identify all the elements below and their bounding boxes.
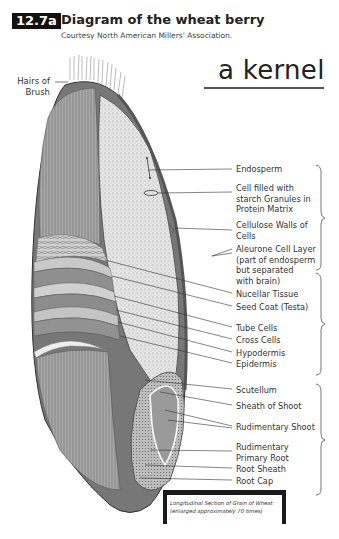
- caption-line-2: (enlarged approximately 70 times): [170, 508, 273, 516]
- label-hypodermis: Hypodermis: [236, 348, 285, 359]
- label-root-sheath: Root Sheath: [236, 464, 286, 475]
- label-sheath-of-shoot: Sheath of Shoot: [236, 401, 302, 412]
- label-cross-cells: Cross Cells: [236, 335, 281, 346]
- label-cellulose-walls: Cellulose Walls of Cells: [236, 220, 308, 241]
- label-seed-coat: Seed Coat (Testa): [236, 302, 308, 313]
- label-epidermis: Epidermis: [236, 359, 277, 370]
- label-aleurone-layer: Aleurone Cell Layer (part of endosperm b…: [236, 244, 316, 286]
- label-root-cap: Root Cap: [236, 476, 273, 487]
- label-tube-cells: Tube Cells: [236, 323, 277, 334]
- label-endosperm: Endosperm: [236, 164, 282, 175]
- label-rudimentary-primary-root: Rudimentary Primary Root: [236, 442, 289, 463]
- caption: Longitudinal Section of Grain of Wheat (…: [170, 500, 273, 515]
- label-nucellar-tissue: Nucellar Tissue: [236, 289, 298, 300]
- label-rudimentary-shoot: Rudimentary Shoot: [236, 422, 315, 433]
- group-brackets: [316, 165, 325, 495]
- label-scutellum: Scutellum: [236, 385, 277, 396]
- caption-line-1: Longitudinal Section of Grain of Wheat: [170, 500, 273, 508]
- label-starch-cell: Cell filled with starch Granules in Prot…: [236, 183, 311, 215]
